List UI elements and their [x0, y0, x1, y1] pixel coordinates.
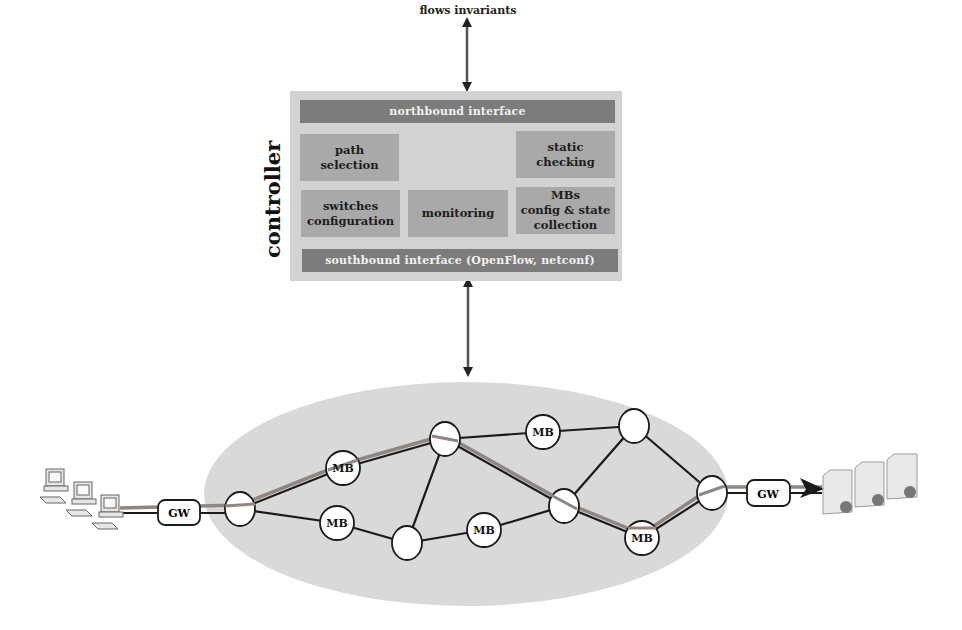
static-checking-module: static checking: [516, 131, 615, 178]
svg-text:GW: GW: [168, 507, 190, 520]
gateway-right: GW: [747, 480, 790, 506]
server-icon: [855, 462, 884, 507]
mb-label: MB: [332, 462, 353, 475]
network-cloud: [204, 382, 728, 606]
mb-label: MB: [532, 426, 553, 439]
switches-configuration-module: switches configuration: [301, 190, 400, 237]
switch-node: [225, 492, 255, 526]
server-icon: [823, 470, 852, 514]
southbound-interface-bar: southbound interface (OpenFlow, netconf): [302, 249, 618, 272]
controller-label: controller: [261, 148, 285, 258]
switch-node: [619, 409, 649, 443]
gateway-left: GW: [158, 500, 200, 525]
path-selection-module: path selection: [300, 134, 399, 181]
switch-node: [392, 526, 422, 560]
mb-label: MB: [326, 517, 347, 530]
mbs-config-state-module: MBs config & state collection: [516, 187, 615, 234]
computer-icon: [40, 469, 68, 503]
computer-icon: [66, 482, 96, 516]
monitoring-module: monitoring: [408, 190, 508, 237]
mb-label: MB: [631, 532, 652, 545]
computer-icon: [92, 495, 123, 529]
servers-icon: [823, 454, 917, 514]
northbound-interface-bar: northbound interface: [300, 100, 615, 123]
mb-label: MB: [473, 524, 494, 537]
server-icon: [887, 454, 917, 499]
client-computers-icon: [40, 469, 123, 529]
svg-text:GW: GW: [757, 488, 779, 501]
